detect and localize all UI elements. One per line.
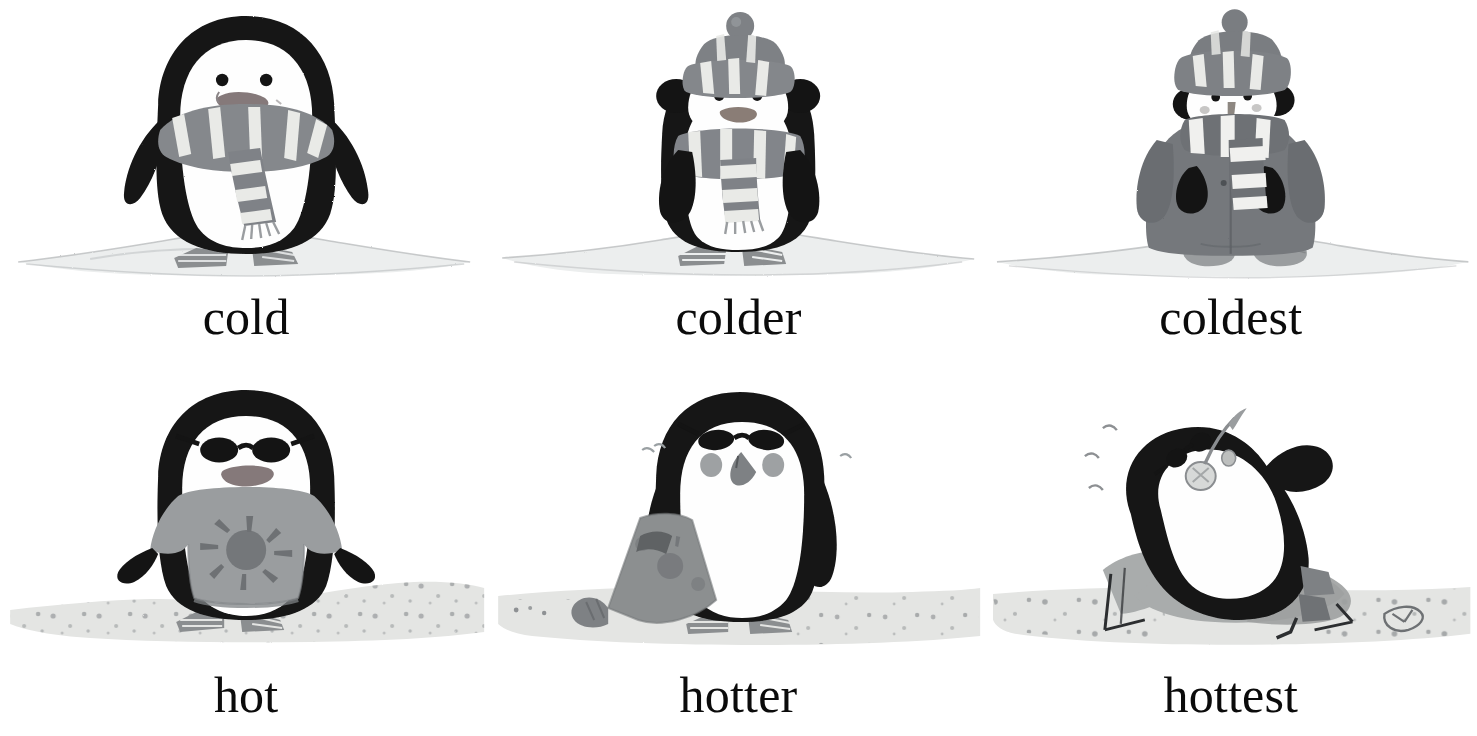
cell-coldest[interactable]: coldest xyxy=(985,0,1477,368)
penguin-coldest-icon xyxy=(985,0,1477,288)
cell-hottest[interactable]: hottest xyxy=(985,368,1477,736)
penguin-colder-icon xyxy=(492,0,984,288)
caption-hotter: hotter xyxy=(492,670,984,720)
caption-coldest: coldest xyxy=(985,292,1477,342)
penguin-hot-icon xyxy=(0,368,492,668)
bobble-hat xyxy=(1174,9,1291,96)
beach-towel xyxy=(572,514,717,628)
bird-marks xyxy=(1085,426,1117,491)
cell-cold[interactable]: cold xyxy=(0,0,492,368)
caption-hot: hot xyxy=(0,670,492,720)
caption-colder: colder xyxy=(492,292,984,342)
cell-hot[interactable]: hot xyxy=(0,368,492,736)
caption-hottest: hottest xyxy=(985,670,1477,720)
penguin-cold-icon xyxy=(0,0,492,288)
cell-colder[interactable]: colder xyxy=(492,0,984,368)
cell-hotter[interactable]: hotter xyxy=(492,368,984,736)
caption-cold: cold xyxy=(0,292,492,342)
penguin-hotter-icon xyxy=(492,368,984,668)
penguin-grid: cold xyxy=(0,0,1477,736)
illustration-sheet: cold xyxy=(0,0,1477,736)
penguin-hottest-icon xyxy=(985,368,1477,668)
bobble-hat xyxy=(683,12,795,98)
